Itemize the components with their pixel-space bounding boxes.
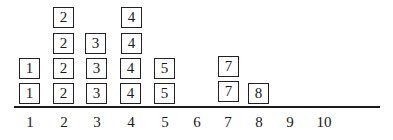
axis-tick-label: 9 [275,114,305,131]
number-box: 4 [120,83,141,104]
number-box: 4 [120,58,141,79]
number-box: 5 [154,83,175,104]
axis-tick-label: 2 [49,114,79,131]
number-box: 8 [248,83,269,104]
number-box: 3 [85,33,106,54]
number-box: 2 [53,33,74,54]
number-box: 3 [86,83,107,104]
number-box: 7 [218,81,239,102]
number-box: 4 [121,33,142,54]
number-box: 2 [53,7,74,28]
axis-tick-label: 4 [116,114,146,131]
axis-tick-label: 6 [182,114,212,131]
axis-tick-label: 3 [82,114,112,131]
number-box: 5 [154,58,175,79]
number-box: 3 [86,58,107,79]
axis-tick-label: 5 [150,114,180,131]
number-box: 4 [121,7,142,28]
axis-tick-label: 10 [309,114,339,131]
axis-tick-label: 7 [213,114,243,131]
number-box: 2 [53,58,74,79]
axis-tick-label: 1 [15,114,45,131]
number-box: 1 [19,58,40,79]
number-box: 1 [19,83,40,104]
number-box: 7 [218,56,239,77]
axis-tick-label: 8 [244,114,274,131]
number-box: 2 [53,83,74,104]
number-line-axis [14,106,380,108]
